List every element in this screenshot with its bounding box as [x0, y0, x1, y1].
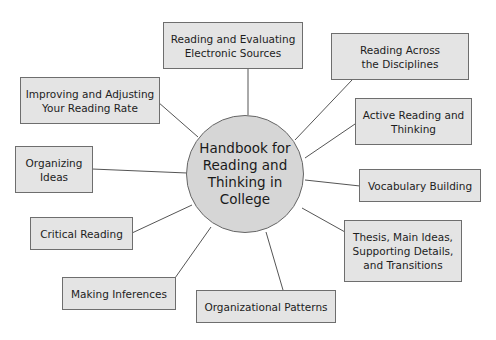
- hub-label: College: [220, 191, 270, 207]
- node-label: Electronic Sources: [171, 46, 296, 60]
- concept-map: Reading and EvaluatingElectronic Sources…: [0, 0, 496, 340]
- node-label: Organizational Patterns: [204, 300, 327, 314]
- node-label: Vocabulary Building: [368, 179, 472, 193]
- hub-label: Handbook for: [199, 140, 290, 156]
- node-label: Your Reading Rate: [26, 101, 154, 115]
- node-label: Ideas: [26, 170, 83, 184]
- node-label: Thinking: [363, 122, 465, 136]
- node-label: Active Reading and: [363, 108, 465, 122]
- node-organizing-ideas: OrganizingIdeas: [15, 146, 93, 193]
- node-active-reading: Active Reading andThinking: [355, 98, 472, 145]
- node-making-inferences: Making Inferences: [62, 277, 176, 310]
- node-electronic-sources: Reading and EvaluatingElectronic Sources: [163, 22, 303, 69]
- node-label: Improving and Adjusting: [26, 87, 154, 101]
- node-label: Organizing: [26, 156, 83, 170]
- node-thesis-main-ideas: Thesis, Main Ideas,Supporting Details,an…: [344, 220, 462, 282]
- central-hub: Handbook for Reading and Thinking in Col…: [186, 115, 304, 233]
- hub-label: Thinking in: [208, 174, 282, 190]
- node-across-disciplines: Reading Acrossthe Disciplines: [331, 33, 469, 80]
- node-vocabulary: Vocabulary Building: [359, 169, 481, 202]
- node-organizational-patterns: Organizational Patterns: [196, 290, 336, 323]
- node-label: the Disciplines: [360, 57, 440, 71]
- node-label: Making Inferences: [71, 287, 167, 301]
- node-critical-reading: Critical Reading: [30, 217, 133, 250]
- node-label: Thesis, Main Ideas,: [353, 230, 454, 244]
- node-label: and Transitions: [353, 258, 454, 272]
- node-reading-rate: Improving and AdjustingYour Reading Rate: [20, 77, 160, 124]
- hub-label: Reading and: [203, 157, 288, 173]
- node-label: Critical Reading: [40, 227, 123, 241]
- node-label: Reading and Evaluating: [171, 32, 296, 46]
- node-label: Supporting Details,: [353, 244, 454, 258]
- node-label: Reading Across: [360, 43, 440, 57]
